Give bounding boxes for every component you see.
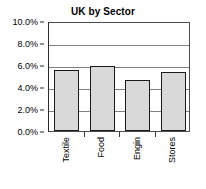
x-tick-label-text: Textile bbox=[61, 137, 71, 163]
x-tick-label-text: Engin bbox=[132, 137, 142, 160]
y-tick-mark bbox=[40, 66, 44, 67]
x-tick-label-food: Food bbox=[96, 137, 106, 158]
y-tick-label: 2.0% bbox=[17, 105, 38, 115]
y-tick-mark bbox=[40, 44, 44, 45]
y-tick-label: 8.0% bbox=[17, 39, 38, 49]
y-tick-label: 0.0% bbox=[17, 127, 38, 137]
x-axis: TextileFoodEnginStores bbox=[48, 137, 190, 189]
category-tick bbox=[84, 132, 85, 137]
category-tick bbox=[119, 132, 120, 137]
x-tick-label-text: Food bbox=[96, 137, 106, 158]
bar-food bbox=[90, 66, 115, 131]
x-tick-label-textile: Textile bbox=[61, 137, 71, 163]
x-tick-label-text: Stores bbox=[167, 137, 177, 163]
bar-textile bbox=[54, 70, 79, 131]
x-tick-label-stores: Stores bbox=[167, 137, 177, 163]
bars-group bbox=[49, 23, 189, 131]
y-tick-mark bbox=[40, 132, 44, 133]
y-tick-mark bbox=[40, 88, 44, 89]
bar-stores bbox=[161, 72, 186, 131]
chart-title: UK by Sector bbox=[0, 6, 206, 17]
bar-chart: UK by Sector 0.0%2.0%4.0%6.0%8.0%10.0% T… bbox=[0, 0, 206, 189]
y-tick-label: 10.0% bbox=[12, 17, 38, 27]
x-tick-label-engin: Engin bbox=[132, 137, 142, 160]
y-tick-mark bbox=[40, 110, 44, 111]
y-tick-label: 4.0% bbox=[17, 83, 38, 93]
plot-area bbox=[48, 22, 190, 132]
y-axis: 0.0%2.0%4.0%6.0%8.0%10.0% bbox=[0, 22, 44, 132]
bar-engin bbox=[125, 80, 150, 131]
y-tick-mark bbox=[40, 22, 44, 23]
category-tick bbox=[155, 132, 156, 137]
y-tick-label: 6.0% bbox=[17, 61, 38, 71]
